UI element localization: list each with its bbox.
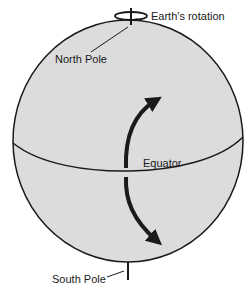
earth-rotation-diagram: Earth's rotation North Pole Equator Sout… xyxy=(0,0,245,293)
rotation-arrow-icon xyxy=(133,19,138,20)
equator-label: Equator xyxy=(143,157,182,169)
south-pole-label: South Pole xyxy=(52,273,106,285)
south-pole-leader xyxy=(107,271,124,277)
north-pole-label: North Pole xyxy=(55,53,107,65)
rotation-label: Earth's rotation xyxy=(151,10,225,22)
